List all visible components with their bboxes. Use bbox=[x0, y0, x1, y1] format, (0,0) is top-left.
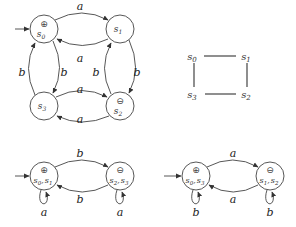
edge-label-b: b bbox=[60, 66, 67, 79]
edge-label-a: a bbox=[77, 113, 84, 126]
loop-s1s2-b bbox=[266, 190, 274, 204]
svg-text:s2: s2 bbox=[114, 106, 123, 117]
edge-label-a: a bbox=[77, 52, 84, 65]
edge-s3-s0-b bbox=[29, 43, 36, 95]
accept-marker-s0: ⊕ bbox=[40, 19, 48, 29]
svg-text:s1: s1 bbox=[114, 24, 122, 35]
loop-s0s1-a bbox=[40, 190, 48, 204]
edge-s1-s0-a bbox=[57, 39, 108, 46]
accept-marker: ⊕ bbox=[40, 165, 48, 175]
edge-label-a: a bbox=[230, 147, 237, 160]
square-graph: s0 s1 s2 s3 bbox=[187, 51, 251, 102]
edge-label-a: a bbox=[77, 0, 84, 13]
edge-s0s3-s1s2-a bbox=[207, 160, 258, 167]
loop-s2s3-a bbox=[116, 190, 124, 204]
edge-label-a: a bbox=[77, 83, 84, 96]
reject-marker: ⊖ bbox=[116, 165, 124, 175]
svg-text:s3: s3 bbox=[38, 101, 47, 112]
loop-label-a: a bbox=[117, 206, 124, 219]
state-label-s2-s3: s2,s3 bbox=[110, 176, 129, 186]
bottom-left-labels: ⊕ s0,s1 ⊖ s2,s3 b b a a bbox=[34, 147, 129, 219]
edge-label-b: b bbox=[92, 66, 99, 79]
diagram-canvas: ⊕ s0 s1 ⊖ s2 s3 a a a a b b b b s0 s1 s2… bbox=[0, 0, 296, 227]
reject-marker: ⊖ bbox=[266, 165, 274, 175]
node-s0: s0 bbox=[187, 51, 197, 64]
loop-label-b: b bbox=[266, 206, 273, 219]
edge-label-a: a bbox=[230, 193, 237, 206]
svg-text:s0: s0 bbox=[37, 29, 46, 40]
edge-s1s2-s0s3-a bbox=[209, 185, 258, 192]
edge-label-b: b bbox=[133, 66, 140, 79]
edge-s0s1-s2s3-b bbox=[55, 160, 108, 167]
node-s2: s2 bbox=[241, 89, 251, 102]
edge-s2s3-s0s1-b bbox=[57, 185, 108, 192]
bottom-right-labels: ⊕ s0,s3 ⊖ s1,s2 a a b b bbox=[186, 147, 279, 219]
state-label-s1-s2: s1,s2 bbox=[260, 176, 279, 186]
node-s3: s3 bbox=[187, 89, 197, 102]
edge-s0-s1-a bbox=[55, 13, 108, 20]
edge-label-b: b bbox=[76, 193, 83, 206]
loop-s0s3-b bbox=[192, 190, 200, 204]
state-label-s0-s1: s0,s1 bbox=[34, 176, 53, 186]
top-automaton-labels: ⊕ s0 s1 ⊖ s2 s3 a a a a b b b b bbox=[18, 0, 140, 126]
state-label-s0-s3: s0,s3 bbox=[186, 176, 205, 186]
node-s1: s1 bbox=[241, 51, 251, 64]
reject-marker-s2: ⊖ bbox=[116, 96, 124, 106]
loop-label-a: a bbox=[41, 206, 48, 219]
loop-label-b: b bbox=[192, 206, 199, 219]
edge-label-b: b bbox=[18, 66, 25, 79]
edge-s2-s1-b bbox=[105, 43, 112, 94]
edge-label-b: b bbox=[76, 147, 83, 160]
edge-s0-s3-b bbox=[53, 41, 60, 93]
accept-marker: ⊕ bbox=[192, 165, 200, 175]
